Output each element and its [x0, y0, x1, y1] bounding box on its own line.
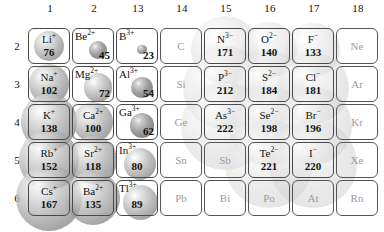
- element-cell-f[interactable]: [292, 28, 334, 64]
- element-cell-cl[interactable]: [292, 66, 334, 102]
- element-cell-as[interactable]: [204, 104, 246, 140]
- element-cell-ar[interactable]: [336, 66, 378, 102]
- element-cell-mg[interactable]: [72, 66, 114, 102]
- element-cell-c[interactable]: [160, 28, 202, 64]
- element-cell-tl[interactable]: [116, 180, 158, 216]
- element-cell-n[interactable]: [204, 28, 246, 64]
- element-cell-s[interactable]: [248, 66, 290, 102]
- element-cell-ba[interactable]: [72, 180, 114, 216]
- element-cell-pb[interactable]: [160, 180, 202, 216]
- element-cell-i[interactable]: [292, 142, 334, 178]
- element-cell-kr[interactable]: [336, 104, 378, 140]
- element-cell-se[interactable]: [248, 104, 290, 140]
- element-cell-po[interactable]: [248, 180, 290, 216]
- element-cell-bi[interactable]: [204, 180, 246, 216]
- element-cell-li[interactable]: [28, 28, 70, 64]
- element-cell-in[interactable]: [116, 142, 158, 178]
- element-cell-rb[interactable]: [28, 142, 70, 178]
- element-cell-sb[interactable]: [204, 142, 246, 178]
- element-cell-b[interactable]: [116, 28, 158, 64]
- element-cell-rn[interactable]: [336, 180, 378, 216]
- element-cell-p[interactable]: [204, 66, 246, 102]
- element-cell-ca[interactable]: [72, 104, 114, 140]
- element-cell-ge[interactable]: [160, 104, 202, 140]
- element-cell-k[interactable]: [28, 104, 70, 140]
- periodic-table-ionic-radii: 12131415161718 23456 Li+76Be2+45B3+23CN3…: [0, 0, 384, 232]
- element-cell-o[interactable]: [248, 28, 290, 64]
- element-cell-sr[interactable]: [72, 142, 114, 178]
- element-cell-te[interactable]: [248, 142, 290, 178]
- element-cell-ga[interactable]: [116, 104, 158, 140]
- element-cell-si[interactable]: [160, 66, 202, 102]
- element-cell-br[interactable]: [292, 104, 334, 140]
- element-cell-sn[interactable]: [160, 142, 202, 178]
- element-cell-xe[interactable]: [336, 142, 378, 178]
- element-cell-ne[interactable]: [336, 28, 378, 64]
- element-cell-cs[interactable]: [28, 180, 70, 216]
- element-cell-na[interactable]: [28, 66, 70, 102]
- element-cell-al[interactable]: [116, 66, 158, 102]
- element-cell-be[interactable]: [72, 28, 114, 64]
- element-grid: [0, 0, 384, 232]
- element-cell-at[interactable]: [292, 180, 334, 216]
